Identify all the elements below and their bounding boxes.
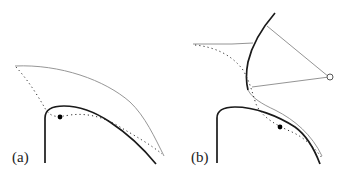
panel-b-dotted-path (195, 45, 322, 158)
panel-a-wall (45, 106, 156, 164)
panel-b-lower-ray (252, 77, 329, 87)
panel-a-dot-marker (58, 115, 63, 120)
panel-a (15, 66, 164, 164)
panel-b (193, 13, 333, 164)
panel-b-pivot-marker (327, 74, 333, 80)
panel-b-wall (217, 107, 320, 164)
panel-b-label: (b) (191, 150, 209, 165)
panel-b-upper-ray (267, 26, 329, 77)
figure: (a) (b) (0, 0, 349, 174)
panel-a-label: (a) (12, 150, 29, 165)
diagram-canvas (0, 0, 349, 174)
panel-b-dot-marker (278, 125, 283, 130)
panel-b-upper-boundary (193, 43, 253, 44)
panel-b-arc (247, 13, 276, 90)
